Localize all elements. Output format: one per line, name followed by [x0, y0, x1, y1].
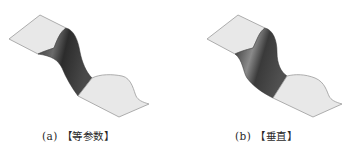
- caption-a: (a) 【等参数】: [42, 128, 114, 143]
- panel-a-isoparametric: (a) 【等参数】: [0, 0, 178, 153]
- caption-b: (b) 【垂直】: [235, 128, 297, 143]
- panel-b-perpendicular: (b) 【垂直】: [177, 0, 355, 153]
